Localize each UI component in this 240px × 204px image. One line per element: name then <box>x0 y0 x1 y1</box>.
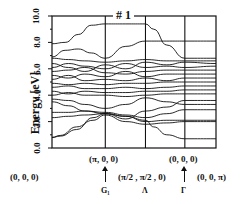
y-tick-label: 6.0 <box>32 63 42 74</box>
band-line <box>52 82 216 85</box>
chart-title: # 1 <box>113 9 134 21</box>
sym-label-lambda: Λ <box>142 187 148 195</box>
band-line <box>52 71 216 78</box>
band-line <box>52 58 216 62</box>
x-label-000-start: (0, 0, 0) <box>10 173 39 182</box>
arrowhead-g1 <box>102 166 108 171</box>
arrow-gamma <box>184 170 185 182</box>
band-line <box>52 86 216 89</box>
band-line <box>52 93 216 97</box>
x-label-00pi: (0, 0, π) <box>197 173 226 182</box>
band-line <box>52 90 216 94</box>
x-label-000-gamma: (0, 0, 0) <box>169 155 198 164</box>
band-line <box>52 41 216 58</box>
x-label-lambda-point: (π/2 , π/2 , 0) <box>118 173 166 182</box>
y-tick-label: 2.0 <box>32 116 42 127</box>
y-tick-label: 8.0 <box>32 37 42 48</box>
x-label-pi00: (π, 0, 0) <box>89 155 118 164</box>
band-lines <box>52 24 216 139</box>
sym-label-gamma: Γ <box>181 187 186 195</box>
arrowhead-gamma <box>181 166 187 171</box>
band-line <box>52 114 216 139</box>
arrow-g1 <box>105 170 106 182</box>
y-tick-label: 0.0 <box>32 142 42 153</box>
band-line <box>52 98 216 109</box>
sym-label-g1: G₁ <box>101 187 110 195</box>
y-tick-label: 4.0 <box>32 90 42 101</box>
y-tick-label: 10.0 <box>31 8 41 24</box>
